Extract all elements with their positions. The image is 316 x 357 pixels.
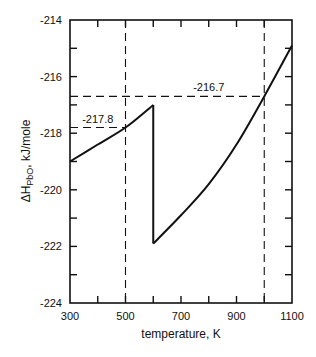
y-tick-label: -214 bbox=[40, 14, 62, 26]
data-series bbox=[153, 45, 292, 243]
annotation-label: -216.7 bbox=[193, 81, 224, 93]
x-tick-label: 900 bbox=[227, 310, 245, 322]
y-tick-label: -224 bbox=[40, 297, 62, 309]
y-tick-label: -216 bbox=[40, 71, 62, 83]
x-tick-labels: 3005007009001100 bbox=[61, 310, 304, 322]
plot-frame bbox=[70, 20, 292, 303]
x-axis-title: temperature, K bbox=[141, 327, 220, 341]
y-tick-labels: -214-216-218-220-222-224 bbox=[40, 14, 62, 309]
y-axis-title: ΔHPbO, kJ/mole bbox=[19, 119, 35, 202]
annotation-label: -217.8 bbox=[82, 113, 113, 125]
y-tick-label: -220 bbox=[40, 184, 62, 196]
x-tick-label: 1100 bbox=[280, 310, 304, 322]
y-tick-label: -222 bbox=[40, 240, 62, 252]
axis-ticks bbox=[70, 20, 292, 303]
y-tick-label: -218 bbox=[40, 127, 62, 139]
x-tick-label: 500 bbox=[116, 310, 134, 322]
enthalpy-chart: 3005007009001100 -214-216-218-220-222-22… bbox=[0, 0, 316, 357]
y-axis-title-sub: PbO bbox=[25, 168, 35, 186]
y-axis-title-main: ΔH bbox=[19, 186, 33, 203]
x-tick-label: 300 bbox=[61, 310, 79, 322]
reference-lines bbox=[70, 20, 264, 303]
data-curves bbox=[70, 45, 292, 243]
x-tick-label: 700 bbox=[172, 310, 190, 322]
y-axis-title-rest: , kJ/mole bbox=[19, 119, 33, 167]
